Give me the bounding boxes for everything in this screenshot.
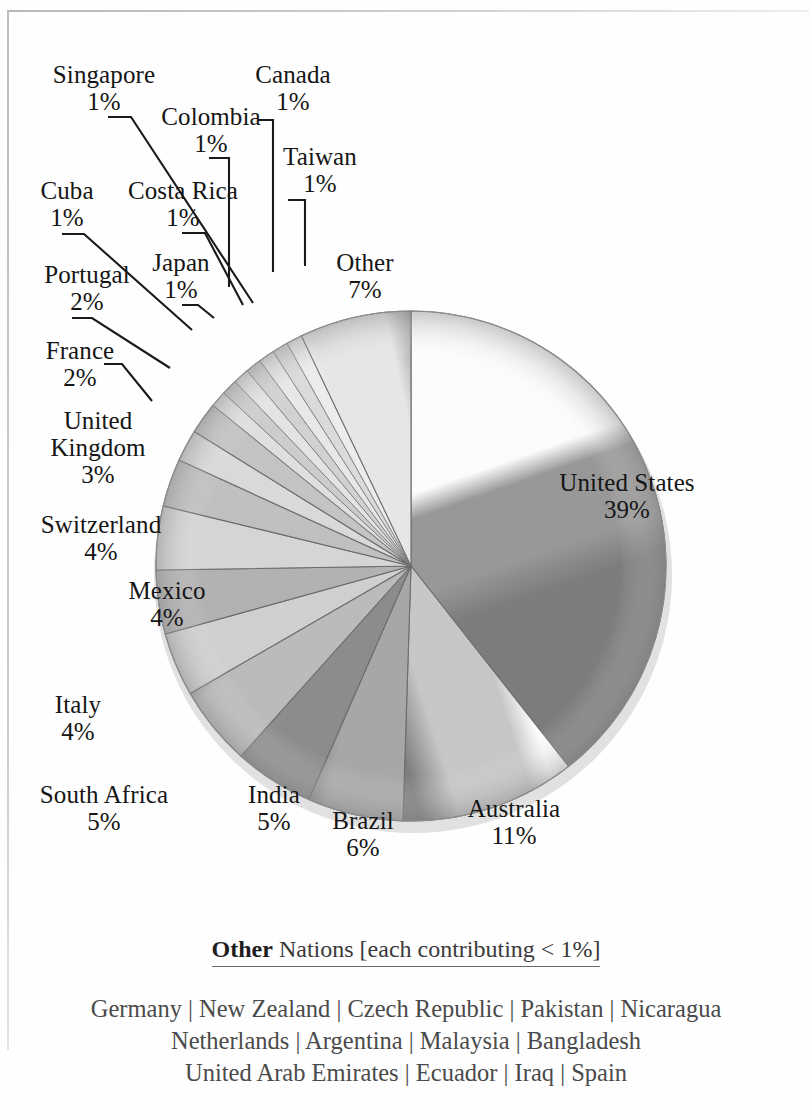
other-nations-heading-bold: Other bbox=[212, 936, 273, 962]
slice-label-other: Other 7% bbox=[290, 250, 440, 304]
other-nations-heading: Other Nations [each contributing < 1%] bbox=[212, 935, 601, 967]
slice-label-south-africa: South Africa 5% bbox=[0, 782, 212, 836]
slice-label-australia: Australia 11% bbox=[420, 796, 608, 850]
slice-label-canada: Canada 1% bbox=[218, 62, 368, 116]
slice-label-italy: Italy 4% bbox=[8, 692, 148, 746]
footer: Other Nations [each contributing < 1%] G… bbox=[0, 935, 812, 1090]
slice-label-mexico: Mexico 4% bbox=[92, 578, 242, 632]
pie-rim-shading bbox=[156, 311, 666, 821]
other-nations-line-1: Germany | New Zealand | Czech Republic |… bbox=[0, 993, 812, 1025]
other-nations-line-2: Netherlands | Argentina | Malaysia | Ban… bbox=[0, 1025, 812, 1057]
other-nations-list: Germany | New Zealand | Czech Republic |… bbox=[0, 993, 812, 1090]
leader-line-japan bbox=[182, 305, 214, 318]
slice-label-united-states: United States 39% bbox=[520, 470, 734, 524]
slice-label-portugal: Portugal 2% bbox=[0, 262, 180, 316]
slice-label-france: France 2% bbox=[0, 338, 166, 392]
pie-chart-figure: United States 39%Australia 11%Brazil 6%I… bbox=[0, 0, 812, 1115]
other-nations-line-3: United Arab Emirates | Ecuador | Iraq | … bbox=[0, 1057, 812, 1089]
slice-label-costa-rica: Costa Rica 1% bbox=[90, 178, 276, 232]
other-nations-heading-rest: Nations [each contributing < 1%] bbox=[273, 936, 600, 962]
slice-label-brazil: Brazil 6% bbox=[290, 808, 436, 862]
slice-label-united-kingdom: United Kingdom 3% bbox=[8, 408, 188, 488]
slice-label-switzerland: Switzerland 4% bbox=[0, 512, 208, 566]
